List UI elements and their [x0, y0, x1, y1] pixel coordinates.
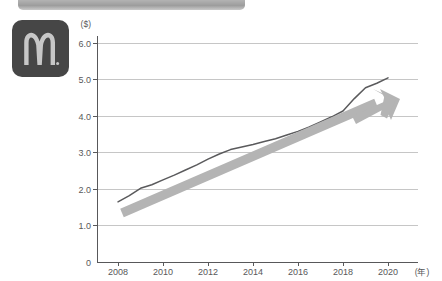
x-tick-label-2016: 2016 — [288, 267, 308, 277]
y-tick-label-0: 0 — [86, 258, 91, 268]
y-tick-label-2: 2.0 — [78, 185, 91, 195]
y-tick-label-5: 5.0 — [78, 75, 91, 85]
price-line-series — [118, 78, 388, 202]
y-tick-label-6: 6.0 — [78, 39, 91, 49]
y-tick-label-1: 1.0 — [78, 221, 91, 231]
screenshot-canvas: ($) 6.0 5.0 4.0 3.0 2.0 1.0 0 2008 2010 … — [0, 0, 442, 281]
x-tick-label-2014: 2014 — [243, 267, 263, 277]
x-axis-unit-label: (年) — [415, 267, 430, 277]
trend-arrow — [122, 89, 400, 213]
x-tick-label-2010: 2010 — [153, 267, 173, 277]
y-tick-label-4: 4.0 — [78, 112, 91, 122]
x-tick-label-2012: 2012 — [198, 267, 218, 277]
y-tick-label-3: 3.0 — [78, 148, 91, 158]
x-tick-label-2018: 2018 — [333, 267, 353, 277]
x-tick-label-2020: 2020 — [378, 267, 398, 277]
y-axis-unit-label: ($) — [81, 19, 92, 29]
y-tick-marks — [93, 43, 97, 226]
price-line-chart: ($) 6.0 5.0 4.0 3.0 2.0 1.0 0 2008 2010 … — [0, 0, 442, 281]
x-tick-label-2008: 2008 — [108, 267, 128, 277]
